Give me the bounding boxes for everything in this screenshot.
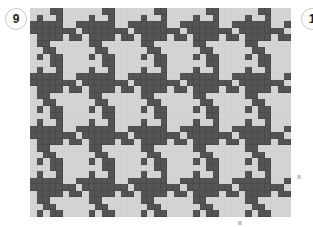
chart-number-label: 9 [13, 12, 20, 26]
row-number-marker [297, 175, 301, 179]
chart-number-badge: 9 [5, 8, 27, 30]
column-number-marker [238, 221, 242, 225]
colorwork-pattern-grid [30, 8, 291, 217]
next-chart-number-badge: 1 [301, 8, 313, 30]
next-chart-number-label: 1 [309, 12, 313, 26]
pattern-cell [284, 210, 291, 217]
